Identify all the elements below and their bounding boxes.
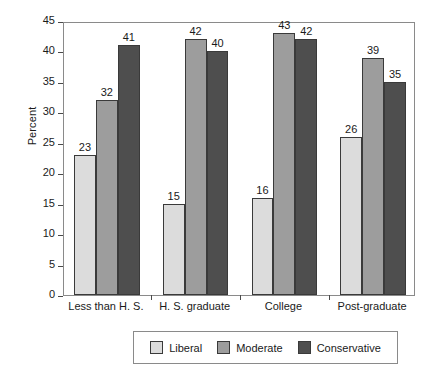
bar-value-label: 23	[74, 141, 96, 153]
y-tick-label: 15	[15, 197, 55, 209]
y-tick-label: 10	[15, 227, 55, 239]
y-tick-label: 35	[15, 75, 55, 87]
bar-value-label: 16	[252, 184, 274, 196]
bar	[273, 33, 295, 295]
legend-item: Conservative	[298, 341, 381, 354]
y-tick-mark	[58, 174, 63, 175]
y-tick-label: 45	[15, 14, 55, 26]
y-tick-label: 20	[15, 166, 55, 178]
y-tick-mark	[58, 113, 63, 114]
y-tick-label: 25	[15, 136, 55, 148]
y-tick-mark	[58, 22, 63, 23]
bar	[185, 39, 207, 295]
bar-value-label: 42	[185, 25, 207, 37]
bar-value-label: 40	[207, 37, 229, 49]
bar	[340, 137, 362, 295]
bar	[207, 51, 229, 295]
bar	[96, 100, 118, 295]
y-axis-title: Percent	[26, 86, 38, 166]
bar-chart: Percent 233241154240164342263935 0510152…	[0, 0, 440, 385]
legend-label: Moderate	[236, 342, 282, 354]
bar	[362, 58, 384, 295]
y-tick-mark	[58, 235, 63, 236]
y-tick-mark	[58, 205, 63, 206]
y-tick-label: 5	[15, 258, 55, 270]
x-axis-category-label: Post-graduate	[312, 300, 432, 312]
y-tick-label: 40	[15, 44, 55, 56]
y-tick-mark	[58, 83, 63, 84]
plot-area: 233241154240164342263935	[63, 22, 415, 296]
legend-swatch-icon	[217, 341, 230, 354]
y-tick-label: 30	[15, 105, 55, 117]
bar-value-label: 43	[273, 19, 295, 31]
bar-value-label: 35	[384, 68, 406, 80]
bar	[163, 204, 185, 295]
legend-label: Conservative	[317, 342, 381, 354]
y-tick-mark	[58, 144, 63, 145]
y-tick-mark	[58, 296, 63, 297]
bar-value-label: 41	[118, 31, 140, 43]
bar-value-label: 26	[340, 123, 362, 135]
plot-inner: 233241154240164342263935	[64, 23, 414, 295]
y-tick-label: 0	[15, 288, 55, 300]
legend-items: LiberalModerateConservative	[134, 332, 397, 363]
bar	[384, 82, 406, 295]
legend-swatch-icon	[298, 341, 311, 354]
y-tick-mark	[58, 266, 63, 267]
y-tick-mark	[58, 52, 63, 53]
legend: LiberalModerateConservative	[133, 331, 398, 364]
legend-item: Liberal	[150, 341, 202, 354]
bar-value-label: 39	[362, 44, 384, 56]
legend-label: Liberal	[169, 342, 202, 354]
legend-swatch-icon	[150, 341, 163, 354]
bar-value-label: 32	[96, 86, 118, 98]
bar	[74, 155, 96, 295]
bar-value-label: 15	[163, 190, 185, 202]
bar	[295, 39, 317, 295]
bar	[118, 45, 140, 295]
bar	[252, 198, 274, 295]
legend-item: Moderate	[217, 341, 282, 354]
bar-value-label: 42	[295, 25, 317, 37]
